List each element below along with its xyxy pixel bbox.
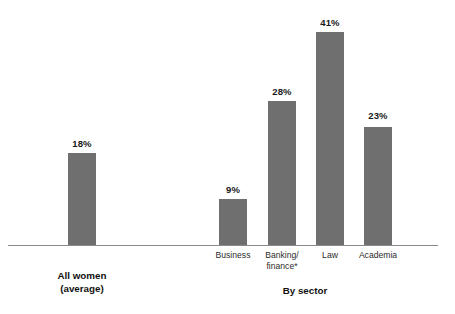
bar-value-all-women-average: 18%: [58, 138, 106, 149]
axis-baseline: [8, 245, 438, 246]
bar-banking-finance: [268, 101, 296, 246]
tick-label-academia: Academia: [348, 250, 408, 261]
bar-value-law: 41%: [306, 17, 354, 28]
bar-law: [316, 32, 344, 246]
bar-business: [219, 199, 247, 246]
group-label-all-women: All women (average): [22, 270, 142, 295]
bar-chart: 18% 9% 28% 41% 23% Business Banking/ fin…: [0, 0, 455, 314]
bar-academia: [364, 127, 392, 246]
bar-value-banking-finance: 28%: [258, 86, 306, 97]
bar-value-academia: 23%: [354, 110, 402, 121]
bar-all-women-average: [68, 153, 96, 246]
bar-value-business: 9%: [209, 184, 257, 195]
plot-area: 18% 9% 28% 41% 23%: [0, 0, 455, 246]
group-label-by-sector: By sector: [245, 285, 365, 298]
